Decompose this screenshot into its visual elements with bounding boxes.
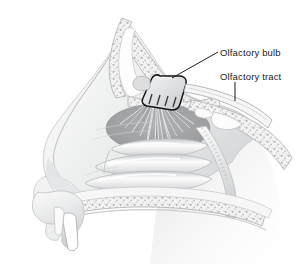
olfactory-tract-label: Olfactory tract: [220, 71, 281, 82]
olfactory-bulb-label: Olfactory bulb: [220, 47, 281, 58]
olfactory-bulb-cap: [133, 76, 150, 91]
incisor-tooth-root: [54, 207, 64, 235]
olfactory-anatomy-figure: Olfactory bulb Olfactory tract: [0, 0, 305, 264]
anatomy-illustration-svg: [0, 0, 305, 264]
